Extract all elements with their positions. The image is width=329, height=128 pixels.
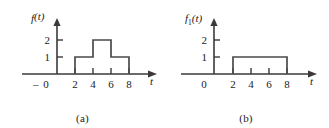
plot-a: f(t) t – 0 2 4 6 8 1 2 xyxy=(0,0,165,110)
x-tick-label-0-a: 0 xyxy=(43,78,49,90)
y-axis-arrow-a xyxy=(53,18,60,26)
y-axis-label-arg-b: (t) xyxy=(192,12,203,25)
figure-panel-b: f1(t) t 0 2 4 6 8 1 2 (b) xyxy=(163,0,329,128)
y-axis-label-b: f1(t) xyxy=(185,12,203,27)
x-tick-label-4-a: 4 xyxy=(90,78,96,90)
caption-b: (b) xyxy=(163,112,329,124)
y-axis-arrow-b xyxy=(210,18,217,26)
x-tick-label-8-b: 8 xyxy=(284,78,290,90)
plot-b: f1(t) t 0 2 4 6 8 1 2 xyxy=(163,0,329,110)
y-axis-label-arg-a: (t) xyxy=(34,10,45,23)
x-tick-label-4-b: 4 xyxy=(248,78,254,90)
figure-pair: f(t) t – 0 2 4 6 8 1 2 (a) xyxy=(0,0,329,128)
x-tick-label-8-a: 8 xyxy=(126,78,132,90)
y-tick-label-1-b: 1 xyxy=(202,51,208,63)
x-axis-label-a: t xyxy=(150,75,154,87)
y-tick-label-2-a: 2 xyxy=(45,34,51,46)
waveform-b xyxy=(233,57,287,74)
x-tick-label-0-b: 0 xyxy=(201,78,207,90)
figure-panel-a: f(t) t – 0 2 4 6 8 1 2 (a) xyxy=(0,0,165,128)
x-tick-label-6-b: 6 xyxy=(266,78,272,90)
y-tick-label-2-b: 2 xyxy=(202,34,208,46)
waveform-a xyxy=(75,40,129,74)
x-tick-label-6-a: 6 xyxy=(108,78,114,90)
x-tick-label-2-a: 2 xyxy=(72,78,78,90)
y-tick-label-1-a: 1 xyxy=(45,51,51,63)
x-tick-label-2-b: 2 xyxy=(230,78,236,90)
y-axis-label-a: f(t) xyxy=(31,10,45,25)
negative-axis-dash-a: – xyxy=(32,78,39,90)
x-axis-label-b: t xyxy=(310,75,314,87)
caption-a: (a) xyxy=(0,112,165,124)
